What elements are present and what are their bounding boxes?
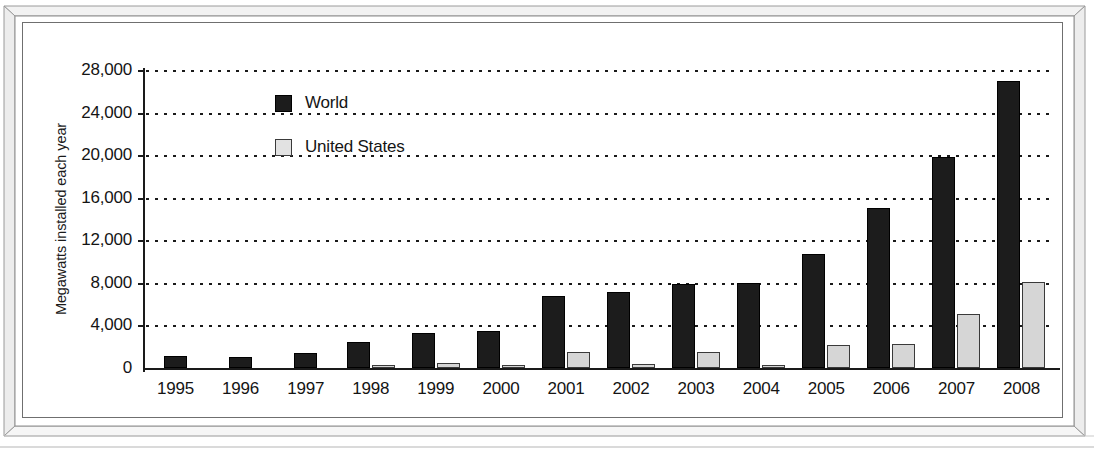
bar-united-states-2007 bbox=[957, 314, 980, 368]
legend-swatch-united-states-icon bbox=[275, 139, 292, 156]
x-tick-label-2005: 2005 bbox=[808, 379, 845, 399]
bar-world-2006 bbox=[867, 208, 890, 368]
y-tick-label-0: 0 bbox=[123, 358, 132, 378]
bar-group-1997 bbox=[273, 353, 338, 368]
y-tick-4000 bbox=[138, 325, 144, 327]
bar-united-states-2003 bbox=[697, 352, 720, 368]
chart-legend: World United States bbox=[275, 93, 404, 181]
bar-world-2002 bbox=[607, 292, 630, 368]
bar-world-2007 bbox=[932, 157, 955, 368]
x-tick-label-2006: 2006 bbox=[873, 379, 910, 399]
bar-united-states-2008 bbox=[1022, 282, 1045, 368]
bar-united-states-2005 bbox=[827, 345, 850, 368]
x-tick-label-2000: 2000 bbox=[482, 379, 519, 399]
legend-label-world: World bbox=[305, 93, 348, 113]
bar-group-1995 bbox=[143, 356, 208, 368]
bar-group-2004 bbox=[729, 283, 794, 368]
bar-world-2003 bbox=[672, 284, 695, 368]
bar-world-1997 bbox=[294, 353, 317, 368]
bar-united-states-2000 bbox=[502, 365, 525, 368]
bar-group-2001 bbox=[533, 296, 598, 368]
bar-group-1996 bbox=[208, 357, 273, 368]
y-axis-title: Megawatts installed each year bbox=[53, 123, 69, 315]
bar-group-2007 bbox=[924, 157, 989, 368]
bar-united-states-1998 bbox=[372, 365, 395, 368]
x-tick-label-1995: 1995 bbox=[157, 379, 194, 399]
legend-label-united-states: United States bbox=[305, 137, 404, 157]
bar-united-states-2004 bbox=[762, 365, 785, 368]
y-tick-label-12000: 12,000 bbox=[81, 230, 132, 250]
bar-group-2008 bbox=[989, 81, 1054, 368]
bar-world-2005 bbox=[802, 254, 825, 368]
bar-world-2008 bbox=[997, 81, 1020, 368]
bar-group-1998 bbox=[338, 342, 403, 368]
x-tick-label-2003: 2003 bbox=[678, 379, 715, 399]
bar-world-2001 bbox=[542, 296, 565, 368]
bar-united-states-2002 bbox=[632, 364, 655, 368]
y-tick-16000 bbox=[138, 198, 144, 200]
x-tick-label-2004: 2004 bbox=[743, 379, 780, 399]
y-tick-20000 bbox=[138, 155, 144, 157]
bar-group-2002 bbox=[599, 292, 664, 368]
bar-world-1996 bbox=[229, 357, 252, 368]
legend-item-world: World bbox=[275, 93, 404, 113]
y-tick-label-28000: 28,000 bbox=[81, 60, 132, 80]
chart-screenshot: Megawatts installed each year 04,0008,00… bbox=[0, 0, 1094, 452]
x-axis-line bbox=[143, 368, 1060, 370]
bar-group-2005 bbox=[794, 254, 859, 368]
bar-group-2000 bbox=[468, 331, 533, 368]
bar-united-states-2006 bbox=[892, 344, 915, 368]
y-tick-24000 bbox=[138, 113, 144, 115]
y-tick-8000 bbox=[138, 283, 144, 285]
x-tick-label-1997: 1997 bbox=[287, 379, 324, 399]
y-tick-label-4000: 4,000 bbox=[90, 315, 132, 335]
y-tick-label-20000: 20,000 bbox=[81, 145, 132, 165]
x-tick-label-2008: 2008 bbox=[1003, 379, 1040, 399]
bar-united-states-2001 bbox=[567, 352, 590, 368]
x-tick-label-2001: 2001 bbox=[547, 379, 584, 399]
bar-world-2000 bbox=[477, 331, 500, 368]
x-tick-label-1999: 1999 bbox=[417, 379, 454, 399]
bar-group-1999 bbox=[403, 333, 468, 368]
x-tick-label-2007: 2007 bbox=[938, 379, 975, 399]
legend-swatch-world-icon bbox=[275, 95, 292, 112]
bar-world-1995 bbox=[164, 356, 187, 368]
y-tick-12000 bbox=[138, 240, 144, 242]
bar-world-1999 bbox=[412, 333, 435, 368]
y-tick-label-16000: 16,000 bbox=[81, 188, 132, 208]
y-tick-28000 bbox=[138, 70, 144, 72]
y-tick-label-8000: 8,000 bbox=[90, 273, 132, 293]
bar-world-2004 bbox=[737, 283, 760, 368]
y-tick-label-24000: 24,000 bbox=[81, 103, 132, 123]
bar-group-2003 bbox=[664, 284, 729, 368]
bar-world-1998 bbox=[347, 342, 370, 368]
chart-plot-frame: Megawatts installed each year 04,0008,00… bbox=[22, 22, 1063, 418]
bar-group-2006 bbox=[859, 208, 924, 368]
gridline-28000 bbox=[143, 70, 1054, 72]
bar-united-states-1999 bbox=[437, 363, 460, 368]
gridline-16000 bbox=[143, 198, 1054, 200]
x-tick-label-1996: 1996 bbox=[222, 379, 259, 399]
bar-chart: Megawatts installed each year 04,0008,00… bbox=[23, 23, 1062, 417]
x-tick-label-1998: 1998 bbox=[352, 379, 389, 399]
legend-item-united-states: United States bbox=[275, 137, 404, 157]
x-tick-label-2002: 2002 bbox=[613, 379, 650, 399]
